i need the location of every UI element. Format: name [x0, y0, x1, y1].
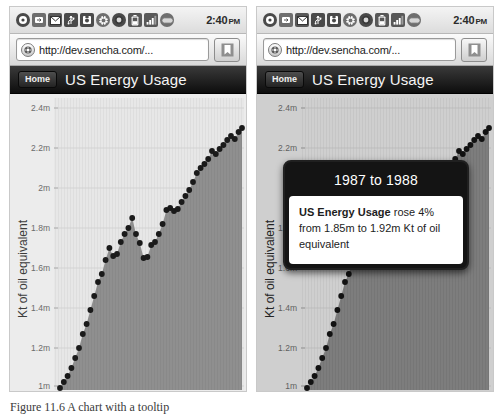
- figure-caption: Figure 11.6 A chart with a tooltip: [10, 400, 169, 414]
- clock-time: 2:40: [453, 14, 474, 26]
- usb-icon: [311, 13, 325, 27]
- alarm-icon: [359, 13, 373, 27]
- clock-time: 2:40: [206, 14, 227, 26]
- figure-container: 2:40PM http://dev.sencha.com/... Home US…: [0, 0, 503, 414]
- svg-text:1.8m: 1.8m: [31, 223, 50, 233]
- url-input[interactable]: http://dev.sencha.com/...: [263, 38, 456, 61]
- svg-text:Kt of oil equivalent: Kt of oil equivalent: [16, 219, 30, 318]
- app-title-bar: Home US Energy Usage: [10, 66, 246, 94]
- energy-usage-chart-left[interactable]: 2.4m 2.2m 2m 1.8m 1.6m 1.4m 1.2m 1m Kt o…: [10, 94, 246, 392]
- tooltip-header: 1987 to 1988: [289, 166, 463, 196]
- home-button[interactable]: Home: [265, 71, 304, 88]
- svg-text:1m: 1m: [285, 381, 297, 391]
- home-button[interactable]: Home: [18, 71, 57, 88]
- svg-text:1.2m: 1.2m: [278, 343, 297, 353]
- bookmark-star-icon[interactable]: [214, 38, 240, 62]
- bookmark-star-icon[interactable]: [461, 38, 487, 62]
- svg-text:1.4m: 1.4m: [31, 303, 50, 313]
- sdcard-icon: [80, 13, 94, 27]
- svg-text:1.4m: 1.4m: [278, 303, 297, 313]
- page-title: US Energy Usage: [312, 71, 434, 88]
- clock-ampm: PM: [475, 17, 487, 26]
- chart-canvas[interactable]: 2.4m 2.2m 2m 1.8m 1.6m 1.4m 1.2m 1m Kt o…: [10, 94, 246, 392]
- android-status-bar: 2:40PM: [10, 7, 246, 34]
- phone-screenshot-right: 2:40PM http://dev.sencha.com/... Home US…: [256, 6, 494, 392]
- phone-screenshot-left: 2:40PM http://dev.sencha.com/... Home US…: [9, 6, 247, 392]
- url-text: http://dev.sencha.com/...: [39, 44, 153, 56]
- status-icon-tray: [263, 13, 453, 27]
- svg-text:2m: 2m: [38, 183, 50, 193]
- sync-icon: [16, 13, 30, 27]
- wifi-icon: [407, 13, 421, 27]
- sync-icon: [263, 13, 277, 27]
- settings-gear-icon: [96, 13, 110, 27]
- svg-text:1.6m: 1.6m: [31, 263, 50, 273]
- svg-text:1m: 1m: [38, 381, 50, 391]
- refresh-globe-icon[interactable]: [268, 43, 282, 57]
- gmail-icon: [48, 13, 62, 27]
- app-title-bar: Home US Energy Usage: [257, 66, 493, 94]
- download-icon: [32, 13, 46, 27]
- status-clock: 2:40PM: [206, 14, 240, 26]
- svg-text:2.2m: 2.2m: [278, 143, 297, 153]
- browser-url-bar: http://dev.sencha.com/...: [10, 34, 246, 66]
- svg-text:2.4m: 2.4m: [31, 103, 50, 113]
- android-status-bar: 2:40PM: [257, 7, 493, 34]
- refresh-globe-icon[interactable]: [21, 43, 35, 57]
- url-text: http://dev.sencha.com/...: [286, 44, 400, 56]
- battery-icon: [375, 13, 389, 27]
- gmail-icon: [295, 13, 309, 27]
- tooltip-series-name: US Energy Usage: [299, 206, 391, 218]
- sdcard-icon: [327, 13, 341, 27]
- chart-tooltip[interactable]: 1987 to 1988 US Energy Usage rose 4% fro…: [283, 160, 469, 270]
- status-icon-tray: [16, 13, 206, 27]
- url-input[interactable]: http://dev.sencha.com/...: [16, 38, 209, 61]
- alarm-icon: [112, 13, 126, 27]
- battery-icon: [128, 13, 142, 27]
- page-title: US Energy Usage: [65, 71, 187, 88]
- status-clock: 2:40PM: [453, 14, 487, 26]
- browser-url-bar: http://dev.sencha.com/...: [257, 34, 493, 66]
- clock-ampm: PM: [228, 17, 240, 26]
- wifi-icon: [160, 13, 174, 27]
- svg-text:1.2m: 1.2m: [31, 343, 50, 353]
- svg-text:2.2m: 2.2m: [31, 143, 50, 153]
- download-icon: [279, 13, 293, 27]
- signal-bars-icon: [144, 13, 158, 27]
- energy-usage-chart-right[interactable]: 2.4m 2.2m 2m 1.8m 1.6m 1.4m 1.2m 1m Kt o…: [257, 94, 493, 392]
- svg-text:Kt of oil equivalent: Kt of oil equivalent: [263, 219, 277, 318]
- svg-text:2.4m: 2.4m: [278, 103, 297, 113]
- settings-gear-icon: [343, 13, 357, 27]
- usb-icon: [64, 13, 78, 27]
- signal-bars-icon: [391, 13, 405, 27]
- tooltip-body: US Energy Usage rose 4% from 1.85m to 1.…: [289, 196, 463, 264]
